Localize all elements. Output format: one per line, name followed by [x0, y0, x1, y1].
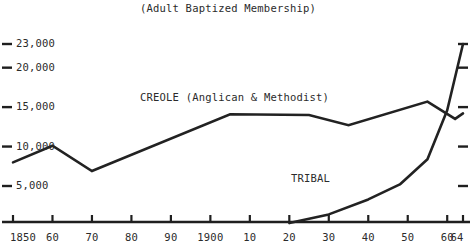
x-tick-label-90: 90 [164, 231, 177, 243]
y-tick-label-10,000: 10,000 [16, 140, 55, 152]
series-line-tribal [289, 44, 463, 223]
x-tick-label-80: 80 [125, 231, 138, 243]
x-tick-label-10: 10 [243, 231, 256, 243]
y-tick-label-23,000: 23,000 [16, 37, 55, 49]
x-tick-label-1850: 1850 [10, 231, 36, 243]
chart-container: (Adult Baptized Membership) CREOLE (Angl… [0, 0, 470, 247]
y-tick-label-20,000: 20,000 [16, 61, 55, 73]
x-tick-label-64: 64 [450, 231, 463, 243]
y-tick-label-5,000: 5,000 [16, 179, 49, 191]
x-tick-label-30: 30 [322, 231, 335, 243]
y-tick-label-15,000: 15,000 [16, 100, 55, 112]
series-line-creole [13, 102, 463, 171]
x-tick-label-60: 60 [46, 231, 59, 243]
x-tick-label-40: 40 [362, 231, 375, 243]
x-tick-label-1900: 1900 [197, 231, 223, 243]
x-tick-label-70: 70 [85, 231, 98, 243]
x-tick-label-50: 50 [401, 231, 414, 243]
plot-area [0, 0, 470, 247]
x-tick-label-20: 20 [283, 231, 296, 243]
